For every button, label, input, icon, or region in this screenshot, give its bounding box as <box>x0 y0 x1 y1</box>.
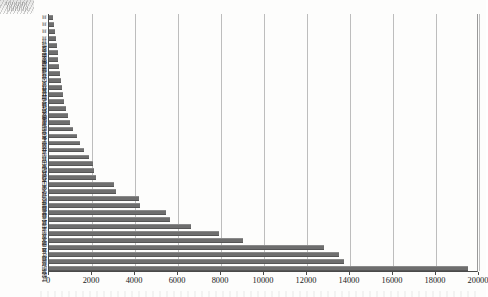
bar <box>49 106 66 111</box>
bar <box>49 245 324 250</box>
bar-fill <box>49 203 140 208</box>
gridline-14000 <box>350 14 351 271</box>
gridline-20000 <box>479 14 480 271</box>
x-tick-label: 0 <box>46 276 50 285</box>
bar <box>49 196 139 201</box>
gridline-16000 <box>393 14 394 271</box>
bar-fill <box>49 168 94 173</box>
y-axis-label: 县 <box>4 28 48 35</box>
x-tick-mark <box>435 272 436 275</box>
bar <box>49 217 170 222</box>
bar-fill <box>49 217 170 222</box>
x-tick-label: 2000 <box>83 276 100 285</box>
bar <box>49 266 468 271</box>
bar-fill <box>49 210 166 215</box>
bar-fill <box>49 43 57 48</box>
bar-fill <box>49 224 191 229</box>
x-tick-mark <box>220 272 221 275</box>
x-tick-mark <box>478 272 479 275</box>
bar-fill <box>49 92 63 97</box>
x-tick-mark <box>91 272 92 275</box>
bar-fill <box>49 120 70 125</box>
x-tick-mark <box>349 272 350 275</box>
x-tick-label: 14000 <box>339 276 360 285</box>
bar <box>49 210 166 215</box>
y-axis-label: 武鸣县 <box>4 272 48 279</box>
bar-fill <box>49 50 58 55</box>
bar-fill <box>49 15 53 20</box>
bar <box>49 155 89 160</box>
bar-fill <box>49 36 56 41</box>
bar <box>49 168 94 173</box>
bar <box>49 252 339 257</box>
bar-fill <box>49 22 54 27</box>
bar-fill <box>49 155 89 160</box>
x-axis: 0200040006000800010000120001400016000180… <box>48 272 478 292</box>
bar <box>49 71 60 76</box>
bar <box>49 92 63 97</box>
bar <box>49 29 55 34</box>
x-tick-label: 12000 <box>296 276 317 285</box>
bar-fill <box>49 57 58 62</box>
x-tick-label: 18000 <box>425 276 446 285</box>
bar-fill <box>49 245 324 250</box>
y-axis-category-labels: 县县县县罗城县田东县都安县靖西市合浦县灵山县车林县田林县靖北县德保县隆安县平果县… <box>4 14 48 272</box>
bar-fill <box>49 64 59 69</box>
bar-fill <box>49 99 64 104</box>
bar-fill <box>49 148 84 153</box>
bar <box>49 231 219 236</box>
x-tick-mark <box>134 272 135 275</box>
bar <box>49 64 59 69</box>
gridline-8000 <box>221 14 222 271</box>
y-axis-label: 县 <box>4 21 48 28</box>
bar <box>49 141 80 146</box>
bar <box>49 238 243 243</box>
plot-area <box>48 14 478 272</box>
bar-fill <box>49 161 93 166</box>
bar-fill <box>49 259 344 264</box>
bar <box>49 99 64 104</box>
x-tick-mark <box>263 272 264 275</box>
bar <box>49 120 70 125</box>
bar-fill <box>49 182 114 187</box>
bar <box>49 15 53 20</box>
bar-fill <box>49 238 243 243</box>
bar <box>49 182 114 187</box>
scan-noise-band-icon <box>40 291 480 297</box>
bar <box>49 175 96 180</box>
bar-fill <box>49 134 77 139</box>
gridline-18000 <box>436 14 437 271</box>
bar <box>49 148 84 153</box>
bar <box>49 161 93 166</box>
x-tick-label: 8000 <box>212 276 229 285</box>
gridline-10000 <box>264 14 265 271</box>
bar <box>49 50 58 55</box>
y-axis-label: 县 <box>4 14 48 21</box>
bar-fill <box>49 78 61 83</box>
bar-fill <box>49 106 66 111</box>
bar <box>49 224 191 229</box>
bar <box>49 113 68 118</box>
bar-fill <box>49 196 139 201</box>
bar-fill <box>49 113 68 118</box>
bar <box>49 203 140 208</box>
bar <box>49 78 61 83</box>
x-tick-label: 10000 <box>253 276 274 285</box>
x-tick-label: 20000 <box>468 276 488 285</box>
x-tick-mark <box>48 272 49 275</box>
bar-fill <box>49 189 116 194</box>
bar <box>49 259 344 264</box>
bar <box>49 189 116 194</box>
bar-fill <box>49 266 468 271</box>
x-tick-label: 4000 <box>126 276 143 285</box>
bar-fill <box>49 231 219 236</box>
bar <box>49 43 57 48</box>
bar <box>49 127 73 132</box>
x-tick-label: 6000 <box>169 276 186 285</box>
bar <box>49 85 62 90</box>
bar-fill <box>49 71 60 76</box>
bar-fill <box>49 85 62 90</box>
bar-fill <box>49 127 73 132</box>
bar <box>49 57 58 62</box>
